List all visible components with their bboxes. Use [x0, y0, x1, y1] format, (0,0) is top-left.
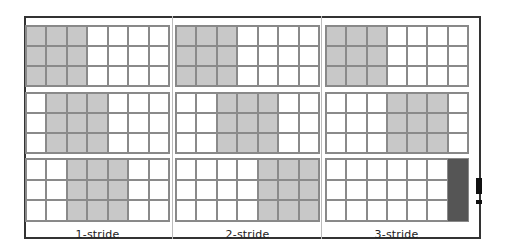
- grid-cell: [237, 200, 257, 221]
- grid-cell: [149, 180, 169, 201]
- grid-cell: [299, 26, 319, 46]
- window-cell: [108, 200, 128, 221]
- grid-cell: [149, 159, 169, 180]
- window-cell: [67, 159, 87, 180]
- window-cell: [26, 26, 46, 46]
- grid-cell: [196, 133, 216, 153]
- grid-cell: [149, 113, 169, 133]
- grid-cell: [346, 180, 366, 201]
- grid-cell: [448, 93, 468, 113]
- window-cell: [87, 159, 107, 180]
- grid-cell: [367, 200, 387, 221]
- grid-cell: [26, 133, 46, 153]
- window-cell: [217, 66, 237, 86]
- grid-cell: [196, 93, 216, 113]
- grid-cell: [46, 180, 66, 201]
- grid-cell: [46, 159, 66, 180]
- grid-cell: [448, 66, 468, 86]
- grid-2-stride-step-1: [175, 25, 320, 87]
- grid-cell: [367, 180, 387, 201]
- grid-cell: [196, 113, 216, 133]
- window-cell: [407, 93, 427, 113]
- grid-cell: [448, 133, 468, 153]
- label-2-stride: 2-stride: [175, 228, 320, 241]
- window-cell: [407, 113, 427, 133]
- grid-cell: [128, 93, 148, 113]
- window-cell: [448, 159, 468, 180]
- grid-cell: [217, 180, 237, 201]
- grid-cell: [326, 159, 346, 180]
- grid-cell: [176, 180, 196, 201]
- window-cell: [427, 93, 447, 113]
- grid-cell: [278, 66, 298, 86]
- grid-cell: [128, 180, 148, 201]
- grid-2-stride-step-2: [175, 92, 320, 154]
- window-cell: [299, 200, 319, 221]
- window-cell: [299, 159, 319, 180]
- window-cell: [196, 26, 216, 46]
- window-cell: [237, 113, 257, 133]
- grid-cell: [108, 133, 128, 153]
- window-cell: [67, 26, 87, 46]
- grid-cell: [237, 26, 257, 46]
- grid-cell: [87, 46, 107, 66]
- grid-cell: [387, 26, 407, 46]
- grid-1-stride-step-3: [25, 158, 170, 222]
- window-cell: [67, 200, 87, 221]
- window-cell: [346, 66, 366, 86]
- grid-cell: [26, 93, 46, 113]
- grid-cell: [326, 180, 346, 201]
- column-divider-2: [321, 16, 322, 239]
- window-cell: [67, 66, 87, 86]
- window-cell: [67, 180, 87, 201]
- window-cell: [278, 159, 298, 180]
- grid-cell: [108, 66, 128, 86]
- grid-cell: [299, 113, 319, 133]
- grid-cell: [258, 26, 278, 46]
- grid-cell: [128, 26, 148, 46]
- window-cell: [237, 133, 257, 153]
- window-cell: [387, 113, 407, 133]
- grid-cell: [149, 26, 169, 46]
- window-cell: [367, 46, 387, 66]
- window-cell: [87, 200, 107, 221]
- grid-cell: [176, 113, 196, 133]
- grid-cell: [176, 200, 196, 221]
- overflow-marker: [476, 178, 482, 194]
- label-3-stride: 3-stride: [324, 228, 469, 241]
- grid-cell: [128, 159, 148, 180]
- grid-cell: [346, 113, 366, 133]
- grid-cell: [237, 159, 257, 180]
- grid-cell: [387, 66, 407, 86]
- grid-cell: [149, 46, 169, 66]
- grid-cell: [299, 66, 319, 86]
- grid-2-stride-step-3: [175, 158, 320, 222]
- grid-cell: [407, 26, 427, 46]
- grid-cell: [407, 200, 427, 221]
- window-cell: [196, 46, 216, 66]
- window-cell: [448, 180, 468, 201]
- grid-1-stride-step-2: [25, 92, 170, 154]
- grid-cell: [237, 46, 257, 66]
- grid-cell: [346, 93, 366, 113]
- grid-1-stride-step-1: [25, 25, 170, 87]
- window-cell: [26, 46, 46, 66]
- grid-cell: [149, 200, 169, 221]
- window-cell: [258, 180, 278, 201]
- window-cell: [87, 180, 107, 201]
- window-cell: [258, 133, 278, 153]
- grid-cell: [299, 93, 319, 113]
- window-cell: [217, 93, 237, 113]
- window-cell: [108, 180, 128, 201]
- window-cell: [87, 113, 107, 133]
- grid-cell: [149, 66, 169, 86]
- window-cell: [46, 113, 66, 133]
- window-cell: [67, 113, 87, 133]
- window-cell: [427, 113, 447, 133]
- grid-cell: [87, 66, 107, 86]
- grid-cell: [128, 133, 148, 153]
- grid-cell: [149, 133, 169, 153]
- grid-cell: [87, 26, 107, 46]
- grid-cell: [367, 113, 387, 133]
- window-cell: [387, 93, 407, 113]
